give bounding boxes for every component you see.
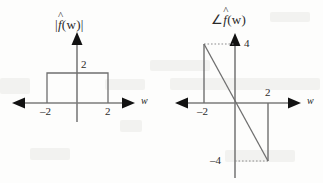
phase-x-axis-label: w	[307, 95, 314, 106]
x-axis-left-arrow-icon	[12, 98, 25, 109]
x-axis-left-arrow-icon	[175, 98, 188, 109]
magnitude-y-tick-2: 2	[81, 58, 87, 70]
y-axis-up-arrow-icon	[72, 32, 83, 45]
phase-plot: ∠^f(w) 4 –4 –2 2 w	[161, 0, 323, 183]
phase-x-tick-minus2: –2	[197, 105, 208, 117]
phase-y-tick-4: 4	[244, 37, 250, 49]
x-axis-right-arrow-icon	[122, 98, 135, 109]
x-axis-right-arrow-icon	[288, 98, 301, 109]
magnitude-plot-svg	[0, 0, 162, 183]
y-axis-up-arrow-icon	[230, 33, 241, 46]
magnitude-x-tick-2: 2	[105, 105, 111, 117]
phase-x-tick-2: 2	[265, 86, 271, 98]
figure-canvas: |^f(w)| 2 –2 2 w ∠^f(w)	[0, 0, 323, 183]
magnitude-x-axis-label: w	[141, 95, 148, 106]
magnitude-plot: |^f(w)| 2 –2 2 w	[0, 0, 162, 183]
magnitude-x-tick-minus2: –2	[40, 105, 51, 117]
phase-plot-svg	[161, 0, 323, 183]
phase-y-tick-minus4: –4	[210, 154, 221, 166]
